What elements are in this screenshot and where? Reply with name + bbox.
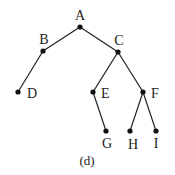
node-E (90, 89, 95, 94)
node-label-A: A (75, 8, 86, 23)
node-label-D: D (27, 86, 37, 101)
node-G (103, 128, 108, 133)
diagram-caption: (d) (79, 153, 94, 168)
node-label-E: E (101, 86, 110, 101)
node-H (127, 128, 132, 133)
node-label-C: C (114, 33, 123, 48)
edge-A-C (80, 27, 118, 52)
node-F (140, 89, 145, 94)
node-A (77, 24, 82, 29)
node-label-G: G (102, 136, 112, 151)
node-label-H: H (128, 137, 138, 152)
node-label-F: F (151, 86, 159, 101)
edge-F-H (130, 92, 143, 131)
node-label-I: I (154, 136, 159, 151)
node-C (115, 49, 120, 54)
node-I (153, 128, 158, 133)
node-D (15, 89, 20, 94)
tree-labels: ABCDEFGHI (27, 8, 159, 152)
tree-nodes (15, 24, 158, 133)
node-B (40, 48, 45, 53)
node-label-B: B (39, 32, 48, 47)
edge-C-F (118, 52, 143, 92)
tree-diagram: ABCDEFGHI (d) (0, 0, 175, 175)
